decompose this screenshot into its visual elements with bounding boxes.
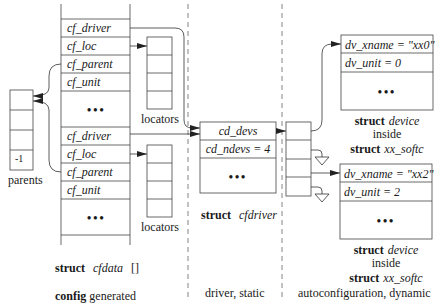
device-1-caption: struct device inside struct xx_softc (341, 113, 433, 156)
caption-keyword: struct (355, 114, 385, 128)
section-text: generated (86, 289, 136, 303)
caption-inside: inside (341, 128, 433, 141)
cfdata-field-cf-driver: cf_driver (67, 130, 111, 142)
device-1-field-unit: dv_unit = 0 (345, 57, 401, 69)
section-config-generated: config generated (55, 287, 136, 303)
cfdriver-ellipsis: ••• (200, 171, 276, 183)
parents-label: parents (8, 174, 43, 186)
caption-type-name: device (388, 243, 419, 257)
device-1-ellipsis: ••• (341, 86, 433, 98)
devs-3-null-line (311, 187, 322, 194)
autoconfig-diagram: cf_driver cf_loc cf_parent cf_unit ••• c… (0, 0, 444, 307)
cfdriver-field-cd-devs: cd_devs (200, 125, 276, 137)
locators-array-1-outline (147, 37, 172, 109)
caption-inside: inside (340, 257, 432, 270)
cfdata-field-cf-driver: cf_driver (67, 22, 111, 34)
cfdata-field-cf-parent: cf_parent (67, 58, 113, 70)
caption-type-name: xx_softc (383, 271, 422, 285)
caption-type-name: xx_softc (384, 142, 423, 156)
caption-array-suffix: [] (131, 261, 139, 275)
cf-parent-arrow-1 (33, 64, 61, 96)
cfdata-ellipsis: ••• (87, 104, 106, 116)
cfdata-field-cf-parent: cf_parent (67, 166, 113, 178)
device-1-field-xname: dv_xname = "xx0" (345, 39, 434, 51)
cfdata-caption: struct cfdata [] (55, 259, 139, 275)
caption-type-name: cfdata (93, 261, 123, 275)
devs-array-outline (286, 122, 311, 196)
devs-0-arrow (311, 44, 341, 131)
caption-type-name: cfdriver (239, 208, 277, 222)
null-pointer-icon (315, 157, 329, 165)
locators-array-2-outline (147, 145, 172, 217)
caption-keyword: struct (350, 142, 380, 156)
cfdata-ellipsis: ••• (87, 212, 106, 224)
cfdata-field-cf-loc: cf_loc (67, 148, 96, 160)
null-pointer-icon (315, 194, 329, 202)
devs-1-null-line (311, 150, 322, 157)
device-2-ellipsis: ••• (340, 215, 432, 227)
cfdriver-field-cd-ndevs: cd_ndevs = 4 (200, 143, 276, 155)
cfdata-field-cf-unit: cf_unit (67, 184, 100, 196)
device-2-caption: struct device inside struct xx_softc (340, 242, 432, 285)
device-2-field-unit: dv_unit = 2 (344, 186, 400, 198)
caption-keyword: struct (354, 243, 384, 257)
device-2-field-xname: dv_xname = "xx2" (344, 168, 433, 180)
cf-parent-arrow-2 (33, 101, 61, 172)
caption-keyword: struct (349, 271, 379, 285)
cfdata-field-cf-loc: cf_loc (67, 40, 96, 52)
section-keyword: config (55, 289, 86, 303)
cfdata-field-cf-unit: cf_unit (67, 76, 100, 88)
cfdriver-caption: struct cfdriver (194, 206, 284, 222)
locators-label: locators (141, 113, 179, 125)
parents-last-value: -1 (15, 154, 23, 164)
caption-type-name: device (389, 114, 420, 128)
caption-keyword: struct (201, 208, 231, 222)
section-driver-static: driver, static (205, 287, 265, 299)
caption-keyword: struct (55, 261, 85, 275)
locators-label: locators (141, 221, 179, 233)
section-autoconfiguration-dynamic: autoconfiguration, dynamic (298, 287, 431, 299)
